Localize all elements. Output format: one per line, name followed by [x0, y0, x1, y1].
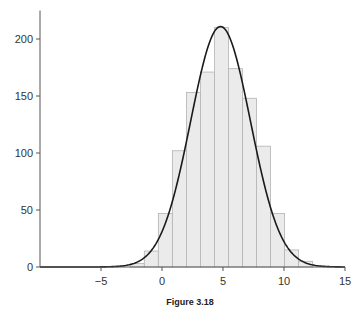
x-tick-label: −5 — [95, 275, 108, 287]
x-tick-label: 5 — [220, 275, 226, 287]
x-tick-label: 15 — [339, 275, 351, 287]
histogram-bar — [186, 93, 200, 267]
histogram-bars — [130, 28, 312, 267]
y-tick-label: 200 — [15, 33, 33, 45]
histogram-bar — [200, 72, 214, 267]
histogram-bar — [243, 98, 257, 267]
y-tick-label: 0 — [27, 261, 33, 273]
histogram-bar — [228, 69, 242, 267]
figure-caption: Figure 3.18 — [0, 297, 362, 307]
y-tick-label: 50 — [21, 204, 33, 216]
x-tick-label: 0 — [159, 275, 165, 287]
y-tick-label: 150 — [15, 90, 33, 102]
histogram-chart: 050100150200−5051015 — [0, 0, 362, 319]
y-tick-label: 100 — [15, 147, 33, 159]
histogram-bar — [257, 146, 271, 267]
histogram-bar — [144, 251, 158, 267]
x-tick-label: 10 — [278, 275, 290, 287]
histogram-bar — [172, 151, 186, 267]
histogram-bar — [214, 28, 228, 267]
